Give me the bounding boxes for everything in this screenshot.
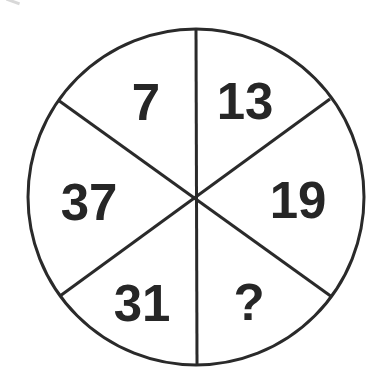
- sector-right-number: 19: [270, 172, 327, 229]
- sector-bottom-left-number: 31: [114, 275, 171, 332]
- sector-top-left-number: 7: [132, 74, 160, 131]
- number-wheel-puzzle: 7 13 19 ? 31 37: [0, 0, 388, 386]
- sector-bottom-right-unknown: ?: [233, 274, 264, 331]
- sector-numbers: 7 13 19 ? 31 37: [61, 73, 327, 332]
- sector-left-number: 37: [61, 174, 118, 231]
- sector-top-right-number: 13: [217, 73, 274, 130]
